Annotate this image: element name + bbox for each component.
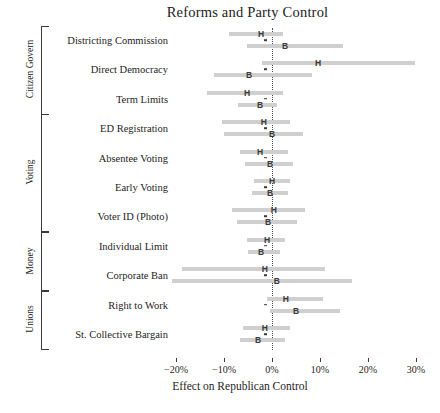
- y-axis-tick: [264, 39, 267, 41]
- estimate-marker-b: B: [267, 189, 273, 198]
- confidence-interval-bar: [240, 150, 288, 154]
- confidence-interval-bar: [240, 338, 285, 342]
- estimate-marker-h: H: [271, 206, 277, 215]
- estimate-marker-h: H: [244, 89, 250, 98]
- group-label: Money: [25, 247, 35, 274]
- group-label: Citizen Govern: [25, 40, 35, 98]
- y-axis-tick: [264, 98, 267, 100]
- estimate-marker-h: H: [283, 294, 289, 303]
- confidence-interval-bar: [229, 32, 283, 36]
- estimate-marker-b: B: [255, 336, 261, 345]
- x-axis-tick-label: 0%: [265, 364, 278, 375]
- y-axis-label: Direct Democracy: [91, 64, 168, 75]
- y-axis-label: Absentee Voting: [99, 152, 168, 163]
- estimate-marker-b: B: [267, 159, 273, 168]
- y-axis-tick: [264, 274, 267, 276]
- estimate-marker-b: B: [269, 130, 275, 139]
- confidence-interval-bar: [267, 297, 323, 301]
- group-bracket: [41, 291, 49, 350]
- y-axis-tick: [264, 127, 267, 129]
- x-axis-tick: [416, 358, 417, 362]
- y-axis-label: St. Collective Bargain: [75, 329, 168, 340]
- y-axis-label: Corporate Ban: [106, 270, 168, 281]
- confidence-interval-bar: [224, 132, 303, 136]
- estimate-marker-h: H: [262, 324, 268, 333]
- estimate-marker-b: B: [257, 101, 263, 110]
- confidence-interval-bar: [172, 279, 352, 283]
- estimate-marker-h: H: [261, 118, 267, 127]
- confidence-interval-bar: [247, 44, 343, 48]
- estimate-marker-b: B: [265, 218, 271, 227]
- confidence-interval-bar: [182, 267, 325, 271]
- chart-root: Reforms and Party Control Districting Co…: [0, 0, 440, 413]
- group-bracket: [41, 26, 49, 115]
- y-axis-tick: [264, 304, 267, 306]
- group-bracket: [41, 232, 49, 291]
- confidence-interval-bar: [214, 73, 312, 77]
- x-axis-tick: [224, 358, 225, 362]
- group-label: Voting: [25, 160, 35, 185]
- estimate-marker-b: B: [282, 42, 288, 51]
- x-axis-tick: [368, 358, 369, 362]
- x-axis-tick-label: −10%: [212, 364, 236, 375]
- y-axis-label: Voter ID (Photo): [98, 211, 168, 222]
- confidence-interval-bar: [232, 208, 305, 212]
- estimate-marker-h: H: [269, 177, 275, 186]
- confidence-interval-bar: [222, 120, 290, 124]
- estimate-marker-h: H: [315, 59, 321, 68]
- x-axis-tick: [272, 358, 273, 362]
- x-axis-tick: [320, 358, 321, 362]
- estimate-marker-b: B: [293, 306, 299, 315]
- estimate-marker-h: H: [258, 30, 264, 39]
- estimate-marker-b: B: [258, 248, 264, 257]
- y-axis-label: ED Registration: [100, 123, 168, 134]
- y-axis-label: Right to Work: [108, 299, 168, 310]
- estimate-marker-h: H: [264, 236, 270, 245]
- x-axis-tick: [176, 358, 177, 362]
- confidence-interval-bar: [262, 61, 415, 65]
- x-axis-tick-label: −20%: [164, 364, 188, 375]
- y-axis-tick: [264, 245, 267, 247]
- y-axis-tick: [264, 69, 267, 71]
- estimate-marker-b: B: [246, 71, 252, 80]
- x-axis-tick-label: 10%: [311, 364, 329, 375]
- x-axis-tick-label: 30%: [407, 364, 425, 375]
- y-axis-label: Districting Commission: [67, 35, 168, 46]
- y-axis-tick: [264, 333, 267, 335]
- group-bracket: [41, 114, 49, 232]
- confidence-interval-bar: [248, 250, 280, 254]
- estimate-marker-h: H: [262, 265, 268, 274]
- group-label: Unions: [25, 306, 35, 333]
- x-axis-title: Effect on Republican Control: [0, 380, 440, 392]
- estimate-marker-h: H: [257, 147, 263, 156]
- plot-area: Districting CommissionHBDirect Democracy…: [0, 0, 440, 413]
- y-axis-label: Individual Limit: [99, 240, 168, 251]
- y-axis-label: Term Limits: [116, 93, 168, 104]
- y-axis-label: Early Voting: [115, 182, 168, 193]
- estimate-marker-b: B: [274, 277, 280, 286]
- x-axis-tick-label: 20%: [359, 364, 377, 375]
- confidence-interval-bar: [270, 309, 340, 313]
